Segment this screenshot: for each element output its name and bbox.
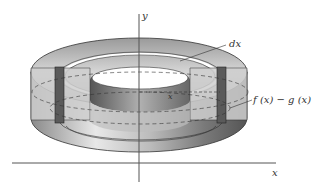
- y-axis-label: y: [141, 10, 148, 21]
- radius-label: x: [168, 92, 173, 101]
- x-axis-label: x: [272, 167, 278, 178]
- shell-left: [55, 67, 64, 123]
- inner-opening: [92, 67, 188, 89]
- shell-method-diagram: y x dx x f (x) − g (x): [0, 0, 312, 187]
- dx-label: dx: [229, 38, 241, 49]
- height-label: f (x) − g (x): [252, 94, 311, 105]
- shell-right: [217, 67, 226, 123]
